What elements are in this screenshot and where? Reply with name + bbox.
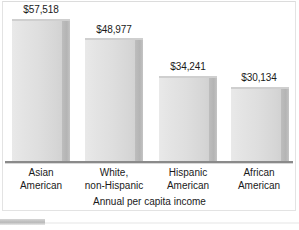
bar-side-face (135, 38, 143, 161)
bar-side-face (281, 87, 289, 161)
bar-asian-american (12, 19, 70, 161)
bar-white-non-hispanic (85, 38, 143, 161)
bar-front-face (12, 19, 62, 161)
bar-top-edge (12, 19, 70, 21)
plot-area: $57,518 $48,977 $34,241 $30,134 (0, 0, 299, 163)
x-axis-title: Annual per capita income (0, 196, 299, 207)
bar-side-face (209, 76, 217, 161)
bar-chart: $57,518 $48,977 $34,241 $30,134 Asian Am… (0, 0, 299, 230)
x-axis-line (5, 161, 293, 164)
bar-front-face (159, 76, 209, 161)
x-tick-line-1: African (225, 167, 293, 180)
x-tick-line-2: American (8, 180, 74, 193)
x-tick-label-white-non-hispanic: White, non-Hispanic (77, 167, 151, 192)
x-tick-line-1: Hispanic (152, 167, 224, 180)
bar-value-label-white-non-hispanic: $48,977 (81, 24, 147, 35)
bar-african-american (231, 87, 289, 161)
bar-value-label-hispanic-american: $34,241 (155, 61, 221, 72)
bar-front-face (85, 38, 135, 161)
x-tick-label-hispanic-american: Hispanic American (152, 167, 224, 192)
page-edge-swatch (0, 219, 45, 225)
bar-hispanic-american (159, 76, 217, 161)
bar-top-edge (159, 76, 217, 78)
x-tick-line-2: American (152, 180, 224, 193)
bar-value-label-african-american: $30,134 (226, 72, 292, 83)
bar-front-face (231, 87, 281, 161)
x-tick-label-asian-american: Asian American (8, 167, 74, 192)
bar-value-label-asian-american: $57,518 (8, 4, 74, 15)
bar-top-edge (231, 87, 289, 89)
x-tick-line-1: White, (77, 167, 151, 180)
x-tick-line-2: American (225, 180, 293, 193)
bar-side-face (62, 19, 70, 161)
x-tick-line-1: Asian (8, 167, 74, 180)
bar-top-edge (85, 38, 143, 40)
x-tick-label-african-american: African American (225, 167, 293, 192)
x-tick-line-2: non-Hispanic (77, 180, 151, 193)
page-edge-line (45, 222, 299, 224)
